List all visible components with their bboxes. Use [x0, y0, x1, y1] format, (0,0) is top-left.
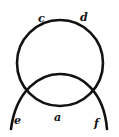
upper-circle	[17, 20, 103, 106]
label-d: d	[80, 11, 88, 24]
label-c: c	[38, 12, 45, 25]
label-e: e	[14, 114, 21, 127]
label-f: f	[93, 117, 101, 130]
label-a: a	[54, 111, 61, 124]
geometry-diagram: c d e a f	[0, 0, 119, 137]
